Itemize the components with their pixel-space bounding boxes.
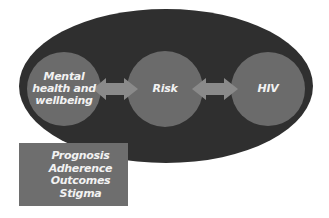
node-hiv-label: HIV bbox=[238, 83, 298, 95]
factor-item: Prognosis bbox=[33, 150, 128, 163]
factors-box: Prognosis Adherence Outcomes Stigma bbox=[19, 143, 128, 206]
factor-item: Stigma bbox=[33, 188, 128, 201]
node-label-line: wellbeing bbox=[24, 95, 104, 107]
factor-item: Outcomes bbox=[33, 175, 128, 188]
node-mental-health-label: Mental health and wellbeing bbox=[24, 71, 104, 107]
node-risk-label: Risk bbox=[135, 83, 195, 95]
